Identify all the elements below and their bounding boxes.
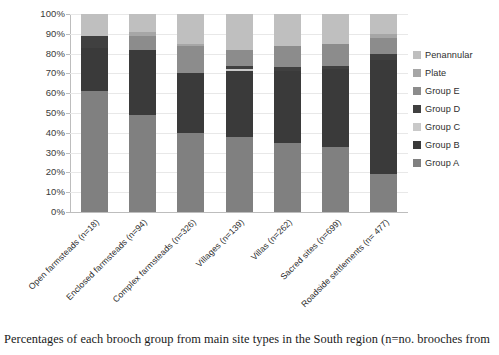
y-axis-tick-label: 50% [46, 107, 65, 118]
bar-segment[interactable] [370, 38, 397, 54]
legend-item[interactable]: Group B [413, 136, 499, 154]
bar-segment[interactable] [322, 44, 349, 66]
legend-item[interactable]: Group E [413, 82, 499, 100]
legend-swatch-icon [413, 69, 421, 77]
legend-swatch-icon [413, 51, 421, 59]
chart-figure: 0%10%20%30%40%50%60%70%80%90%100% Open f… [0, 0, 499, 325]
legend-item[interactable]: Penannular [413, 46, 499, 64]
y-axis-tick-label: 60% [46, 87, 65, 98]
bar-segment[interactable] [129, 14, 156, 32]
legend-item[interactable]: Group D [413, 100, 499, 118]
bar-stack[interactable] [226, 14, 253, 212]
bar-segment[interactable] [370, 14, 397, 34]
y-axis-tick-label: 20% [46, 166, 65, 177]
bar-segment[interactable] [81, 48, 108, 92]
bar-segment[interactable] [274, 143, 301, 212]
bar-segment[interactable] [274, 14, 301, 46]
y-axis-tick-label: 80% [46, 48, 65, 59]
bar-stack[interactable] [370, 14, 397, 212]
legend-swatch-icon [413, 105, 421, 113]
bar-stack[interactable] [129, 14, 156, 212]
y-axis-tick-label: 100% [40, 8, 65, 19]
bar-segment[interactable] [322, 69, 349, 146]
legend-label: Group D [425, 104, 460, 114]
bar-segment[interactable] [129, 36, 156, 50]
bar-stack[interactable] [322, 14, 349, 212]
y-axis-tick-label: 30% [46, 147, 65, 158]
chart-legend: PenannularPlateGroup EGroup DGroup CGrou… [413, 46, 499, 172]
legend-label: Plate [425, 68, 446, 78]
legend-swatch-icon [413, 141, 421, 149]
legend-item[interactable]: Plate [413, 64, 499, 82]
legend-item[interactable]: Group C [413, 118, 499, 136]
y-axis-tick-label: 70% [46, 67, 65, 78]
y-axis-tick-label: 10% [46, 186, 65, 197]
bar-segment[interactable] [81, 36, 108, 48]
bar-segment[interactable] [177, 133, 204, 212]
bar-stack[interactable] [81, 14, 108, 212]
figure-caption: Percentages of each brooch group from ma… [4, 332, 496, 347]
bar-segment[interactable] [322, 147, 349, 212]
bar-segment[interactable] [129, 115, 156, 212]
legend-item[interactable]: Group A [413, 154, 499, 172]
bar-segment[interactable] [274, 71, 301, 142]
bar-segment[interactable] [81, 14, 108, 36]
legend-label: Group A [425, 158, 459, 168]
legend-label: Group C [425, 122, 460, 132]
legend-swatch-icon [413, 159, 421, 167]
x-axis-label-group: Open farmsteads (n=18)Enclosed farmstead… [0, 213, 499, 325]
bar-segment[interactable] [81, 91, 108, 212]
legend-label: Group B [425, 140, 460, 150]
legend-label: Penannular [425, 50, 473, 60]
y-axis-tick-label: 90% [46, 28, 65, 39]
bar-segment[interactable] [177, 14, 204, 44]
bar-segment[interactable] [226, 14, 253, 50]
bar-segment[interactable] [226, 71, 253, 136]
bar-segment[interactable] [129, 50, 156, 115]
bar-segment[interactable] [370, 60, 397, 175]
bar-stack[interactable] [274, 14, 301, 212]
legend-label: Group E [425, 86, 460, 96]
plot-area [70, 14, 408, 212]
bar-segment[interactable] [177, 46, 204, 74]
bar-segment[interactable] [370, 174, 397, 212]
bar-stack[interactable] [177, 14, 204, 212]
y-axis-tick-label: 40% [46, 127, 65, 138]
bar-segment[interactable] [274, 46, 301, 68]
bar-segment[interactable] [226, 50, 253, 66]
bar-segment[interactable] [226, 137, 253, 212]
legend-swatch-icon [413, 123, 421, 131]
legend-swatch-icon [413, 87, 421, 95]
bar-segment[interactable] [322, 14, 349, 44]
bar-segment[interactable] [177, 73, 204, 132]
